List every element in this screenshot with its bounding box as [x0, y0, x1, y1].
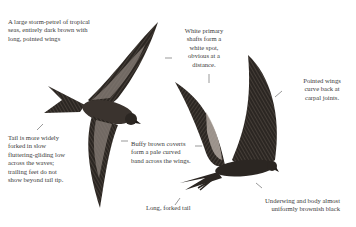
- annotation-underwing: Underwing and body almost uniformly brow…: [240, 197, 340, 214]
- annotation-buffy-coverts: Buffy brown coverts form a pale curved b…: [131, 140, 191, 165]
- annotation-primary-shafts: White primary shafts form a white spot, …: [180, 27, 228, 69]
- annotation-pointed-wings: Pointed wings curve back at carpal joint…: [288, 77, 356, 102]
- annotation-intro: A large storm-petrel of tropical seas, e…: [8, 18, 90, 43]
- annotation-long-tail: Long, forked tail: [146, 204, 191, 212]
- annotation-tail-forked: Tail is more widely forked in slow flutt…: [8, 134, 65, 184]
- right-bird: [175, 55, 279, 190]
